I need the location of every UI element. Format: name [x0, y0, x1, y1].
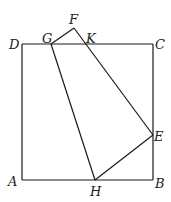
label-e: E: [153, 129, 164, 144]
segment-eh: [95, 135, 153, 180]
point-labels: A B C D E F G H K: [7, 12, 165, 199]
square-abcd: [22, 44, 153, 180]
segment-gf: [51, 28, 74, 44]
label-b: B: [154, 176, 165, 191]
segment-hg: [51, 44, 95, 180]
label-a: A: [7, 174, 17, 189]
label-c: C: [155, 37, 165, 52]
folded-quadrilateral-gfeh: [51, 28, 153, 180]
label-g: G: [42, 31, 52, 46]
label-k: K: [85, 31, 97, 46]
geometry-diagram: A B C D E F G H K: [0, 0, 171, 202]
label-d: D: [8, 37, 20, 52]
label-f: F: [68, 12, 79, 27]
label-h: H: [89, 184, 102, 199]
